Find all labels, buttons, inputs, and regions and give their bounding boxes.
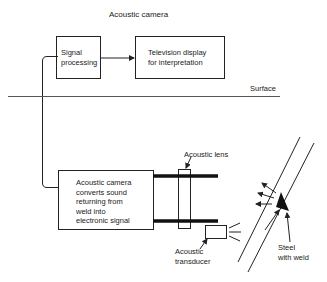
camera-text: Acoustic camera converts sound returning… [76,178,131,226]
acoustic-transducer [206,226,227,239]
steel-leader [287,213,290,242]
text-line: Acoustic [175,247,210,257]
incident-arrow [265,210,279,230]
transducer-label: Acoustic transducer [175,247,210,266]
diagram-title: Acoustic camera [109,10,168,19]
text-line: weld into [76,207,131,217]
reflection-arrow [262,183,276,193]
camera-signal-connector [43,57,59,188]
text-line: with weld [278,253,309,263]
text-line: processing [61,58,97,68]
text-line: Signal [61,48,97,58]
text-line: returning from [76,197,131,207]
emission-line [229,223,240,228]
text-line: Acoustic camera [76,178,131,188]
surface-label: Surface [250,84,276,93]
text-line: Steel [278,243,309,253]
steel-label: Steel with weld [278,243,309,262]
text-line: transducer [175,257,210,267]
text-line: for interpretation [148,58,206,68]
lens-label: Acoustic lens [184,150,228,159]
signal-processing-text: Signal processing [61,48,97,67]
tv-display-text: Television display for interpretation [148,48,206,67]
text-line: electronic signal [76,216,131,226]
text-line: converts sound [76,188,131,198]
text-line: Television display [148,48,206,58]
diagram-canvas [0,0,327,282]
emission-line [229,236,240,241]
